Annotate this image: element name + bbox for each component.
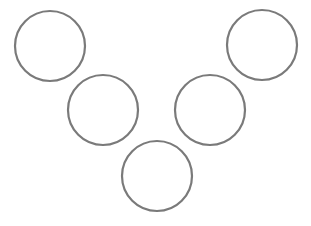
circle-bottom-center <box>122 141 192 211</box>
circle-middle-left <box>68 75 138 145</box>
v-shaped-circle-diagram <box>0 0 311 226</box>
circle-top-left <box>15 11 85 81</box>
circle-top-right <box>227 10 297 80</box>
diagram-svg <box>0 0 311 226</box>
circle-middle-right <box>175 75 245 145</box>
